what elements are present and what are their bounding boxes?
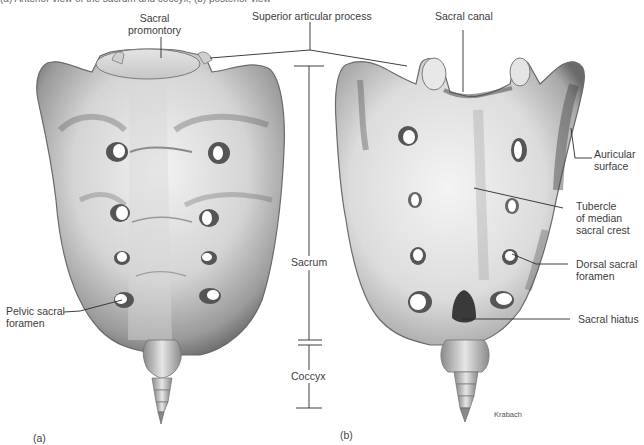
label-text: Auricular [594,148,635,160]
label-tubercle-median-sacral-crest: Tubercle of median sacral crest [576,200,630,236]
label-sacral-canal: Sacral canal [435,10,493,22]
label-auricular-surface: Auricular surface [594,148,635,172]
label-text: foramen [6,317,65,329]
label-text: surface [594,160,635,172]
label-text: Pelvic sacral [6,305,65,317]
panel-label-a: (a) [33,432,46,444]
panel-label-b: (b) [340,429,353,441]
label-pelvic-sacral-foramen: Pelvic sacral foramen [6,305,65,329]
label-dorsal-sacral-foramen: Dorsal sacral foramen [576,258,637,282]
posterior-coccyx [441,340,489,422]
label-text: sacral crest [576,224,630,236]
label-text: foramen [576,270,637,282]
label-text: Tubercle [576,200,630,212]
anterior-sacrum [37,49,285,424]
label-sacral-hiatus: Sacral hiatus [578,313,639,325]
label-coccyx: Coccyx [291,370,325,382]
posterior-sacrum [336,58,585,422]
anterior-coccyx [143,340,181,424]
label-text: of median [576,212,630,224]
label-superior-articular-process: Superior articular process [252,10,372,22]
label-sacral-promontory: Sacral promontory [128,12,181,36]
illustrator-credit: Krabach [494,410,522,419]
label-text: Dorsal sacral [576,258,637,270]
label-text: promontory [128,24,181,36]
label-text: Sacral [128,12,181,24]
label-sacrum: Sacrum [291,256,327,268]
